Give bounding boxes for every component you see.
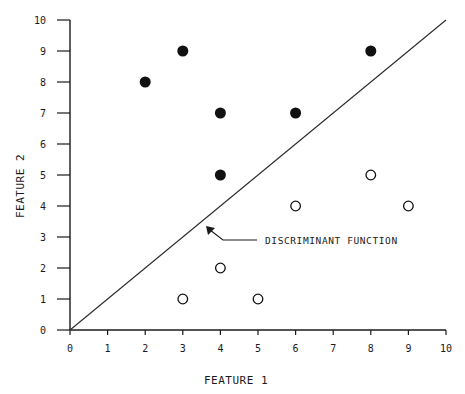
y-tick-label: 3 [40,232,46,243]
x-tick-label: 0 [67,343,73,354]
open-data-point [366,170,376,180]
y-tick-label: 8 [40,77,46,88]
y-tick-label: 1 [40,294,46,305]
discriminant-function-line [70,20,446,330]
filled-data-point [140,77,151,88]
filled-data-point [215,108,226,119]
y-tick-label: 9 [40,46,46,57]
x-tick-label: 10 [440,343,452,354]
x-tick-label: 2 [142,343,148,354]
x-tick-label: 7 [330,343,336,354]
x-tick-label: 1 [105,343,111,354]
arrow-head-icon [206,226,215,235]
filled-data-point [177,46,188,57]
scatter-chart: 012345678910012345678910 DISCRIMINANT FU… [0,0,465,394]
open-data-point [216,263,226,273]
discriminant-annotation: DISCRIMINANT FUNCTION [206,226,398,246]
open-data-point [291,201,301,211]
y-tick-label: 7 [40,108,46,119]
x-tick-label: 4 [217,343,223,354]
filled-data-point [365,46,376,57]
annotation-arrow-line [210,230,257,240]
filled-data-point [215,170,226,181]
axis-ticks: 012345678910012345678910 [34,15,452,355]
data-points [140,46,414,304]
y-tick-label: 5 [40,170,46,181]
open-data-point [178,294,188,304]
open-data-point [253,294,263,304]
x-tick-label: 9 [405,343,411,354]
x-tick-label: 3 [180,343,186,354]
annotation-label: DISCRIMINANT FUNCTION [265,235,398,246]
open-data-point [404,201,414,211]
y-tick-label: 0 [40,325,46,336]
y-tick-label: 6 [40,139,46,150]
filled-data-point [290,108,301,119]
y-axis-title: FEATURE 2 [14,154,27,218]
y-tick-label: 4 [40,201,46,212]
y-tick-label: 2 [40,263,46,274]
y-tick-label: 10 [34,15,46,26]
x-tick-label: 5 [255,343,261,354]
x-tick-label: 6 [293,343,299,354]
x-axis-title: FEATURE 1 [204,374,268,387]
x-tick-label: 8 [368,343,374,354]
